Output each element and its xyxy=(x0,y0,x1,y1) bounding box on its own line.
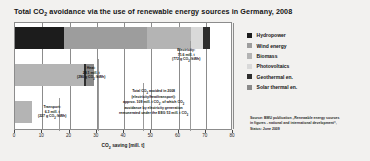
chart-title: Total CO2 avoidance via the use of renew… xyxy=(14,7,292,17)
chart-title-post: avoidance via the use of renewable energ… xyxy=(47,7,292,16)
callout-heat-line3: (290 g CO2 /kWh) xyxy=(77,75,105,81)
legend-item-wind-energy[interactable]: Wind energy xyxy=(247,40,297,50)
legend-item-hydropower[interactable]: Hydropower xyxy=(247,30,297,40)
source-line-3: Status: June 2009 xyxy=(250,127,368,132)
bar-segment-biomass xyxy=(147,27,191,49)
gridline xyxy=(233,23,234,129)
legend-label: Geothermal en. xyxy=(257,74,293,80)
legend-label: Wind energy xyxy=(257,43,287,49)
callout-total: Total CO2 avoided in 2008 (electricity/h… xyxy=(119,89,188,117)
legend-swatch-icon xyxy=(247,43,252,48)
legend-label: Biomass xyxy=(257,53,278,59)
callout-electricity-line3: (772 g CO2 /kWh) xyxy=(172,57,200,63)
legend-swatch-icon xyxy=(247,74,252,79)
legend-item-photovoltaics[interactable]: Photovoltaics xyxy=(247,61,297,71)
legend-label: Photovoltaics xyxy=(257,63,290,69)
source-note: Source: BMU publication „Renewable energ… xyxy=(250,116,368,132)
legend-item-solar-thermal-en[interactable]: Solar thermal en. xyxy=(247,82,297,92)
chart-figure: Total CO2 avoidance via the use of renew… xyxy=(0,0,370,161)
legend-swatch-icon xyxy=(247,53,252,58)
bar-segment-wind-energy xyxy=(64,27,147,49)
x-tick-label: 60 xyxy=(175,133,180,138)
x-axis: 01020304050607080 xyxy=(14,130,232,142)
bar-electricity xyxy=(15,27,210,49)
x-tick-label: 40 xyxy=(120,133,125,138)
x-tick-label: 20 xyxy=(66,133,71,138)
legend: HydropowerWind energyBiomassPhotovoltaic… xyxy=(247,30,297,92)
legend-swatch-icon xyxy=(247,33,252,38)
bar-segment-biomass xyxy=(15,64,84,86)
x-tick-label: 30 xyxy=(93,133,98,138)
x-tick-label: 50 xyxy=(148,133,153,138)
callout-heat: Heat: 29.1 mill. t (290 g CO2 /kWh) xyxy=(77,66,105,82)
legend-swatch-icon xyxy=(247,64,252,69)
callout-transport-line3: (227 g CO2 /kWh) xyxy=(38,114,66,120)
callout-transport: Transport: 6.3 mill. t (227 g CO2 /kWh) xyxy=(38,105,66,121)
callout-total-line5: remunerated under the EEG 53 mill. t CO2 xyxy=(119,111,188,117)
x-tick-label: 70 xyxy=(202,133,207,138)
bar-segment-geothermal-en xyxy=(203,27,210,49)
legend-item-biomass[interactable]: Biomass xyxy=(247,51,297,61)
bar-segment-photovoltaics xyxy=(191,27,203,49)
x-axis-title: CO2 saving [mill. t] xyxy=(14,143,232,150)
x-tick-label: 0 xyxy=(13,133,16,138)
bar-segment-biomass xyxy=(15,101,32,123)
x-tick-label: 10 xyxy=(39,133,44,138)
legend-label: Solar thermal en. xyxy=(257,84,298,90)
x-tick-label: 80 xyxy=(229,133,234,138)
callout-electricity: Electricity: 71.6 mill. t (772 g CO2 /kW… xyxy=(172,48,200,64)
legend-label: Hydropower xyxy=(257,32,286,38)
bar-segment-hydropower xyxy=(15,27,64,49)
plot-area: Electricity: 71.6 mill. t (772 g CO2 /kW… xyxy=(14,22,232,130)
legend-swatch-icon xyxy=(247,85,252,90)
legend-item-geothermal-en[interactable]: Geothermal en. xyxy=(247,72,297,82)
chart-title-pre: Total CO xyxy=(14,7,44,16)
bar-transport xyxy=(15,101,32,123)
